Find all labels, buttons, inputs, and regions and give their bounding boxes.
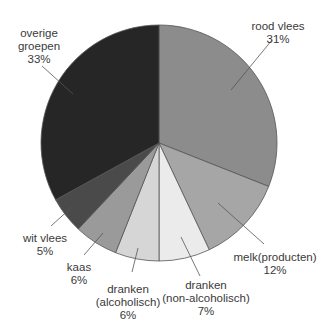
slice-name: (alcoholisch) <box>96 296 161 309</box>
slice-name: rood vlees <box>251 20 304 33</box>
slice-name: melk(producten) <box>233 251 316 264</box>
slice-percent: 31% <box>251 33 304 46</box>
slice-label: overigegroepen33% <box>18 27 60 66</box>
slice-percent: 7% <box>162 305 250 318</box>
slice-percent: 6% <box>67 274 91 287</box>
slice-name: groepen <box>18 40 60 53</box>
slice-percent: 33% <box>18 53 60 66</box>
slice-label: dranken(alcoholisch)6% <box>96 283 161 322</box>
slice-percent: 5% <box>23 245 67 258</box>
slice-label: wit vlees5% <box>23 232 67 258</box>
slice-name: dranken <box>162 279 250 292</box>
slice-label: melk(producten)12% <box>233 251 316 277</box>
slice-percent: 6% <box>96 309 161 322</box>
slice-label: dranken(non-alcoholisch)7% <box>162 279 250 318</box>
slice-label: rood vlees31% <box>251 20 304 46</box>
slice-name: kaas <box>67 261 91 274</box>
slice-label: kaas6% <box>67 261 91 287</box>
slice-percent: 12% <box>233 264 316 277</box>
slice-name: dranken <box>96 283 161 296</box>
slice-name: wit vlees <box>23 232 67 245</box>
slice-name: (non-alcoholisch) <box>162 292 250 305</box>
slice-name: overige <box>18 27 60 40</box>
